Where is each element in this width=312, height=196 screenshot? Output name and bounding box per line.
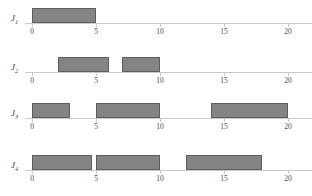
task-bar: [58, 57, 109, 72]
task-bar: [96, 155, 160, 170]
row-label: J1: [11, 14, 18, 23]
axis-tick-label: 5: [94, 77, 98, 85]
gantt-chart: J105101520J205101520J305101520J405101520: [0, 0, 312, 196]
row-label: J2: [11, 63, 18, 72]
axis-tick-label: 10: [156, 77, 164, 85]
axis-tick-label: 15: [220, 28, 228, 36]
row-label: J4: [11, 161, 18, 170]
axis-tick-label: 5: [94, 28, 98, 36]
task-bar: [211, 103, 288, 118]
axis-tick-label: 0: [30, 123, 34, 131]
axis-tick-label: 0: [30, 77, 34, 85]
task-bar: [186, 155, 263, 170]
axis-tick-label: 20: [284, 28, 292, 36]
row-label: J3: [11, 109, 18, 118]
axis-tick-label: 10: [156, 28, 164, 36]
axis-tick-label: 20: [284, 123, 292, 131]
time-axis: [25, 72, 312, 73]
time-axis: [25, 118, 312, 119]
task-bar: [96, 103, 160, 118]
axis-tick-label: 15: [220, 77, 228, 85]
axis-tick-label: 10: [156, 123, 164, 131]
axis-tick-label: 20: [284, 77, 292, 85]
axis-tick-label: 20: [284, 175, 292, 183]
axis-tick-label: 0: [30, 28, 34, 36]
axis-tick-label: 15: [220, 123, 228, 131]
axis-tick-label: 10: [156, 175, 164, 183]
axis-tick-label: 5: [94, 175, 98, 183]
task-bar: [32, 8, 96, 23]
task-bar: [32, 155, 92, 170]
axis-tick-label: 15: [220, 175, 228, 183]
task-bar: [32, 103, 70, 118]
time-axis: [25, 23, 312, 24]
task-bar: [122, 57, 160, 72]
time-axis: [25, 170, 312, 171]
axis-tick-label: 0: [30, 175, 34, 183]
axis-tick-label: 5: [94, 123, 98, 131]
